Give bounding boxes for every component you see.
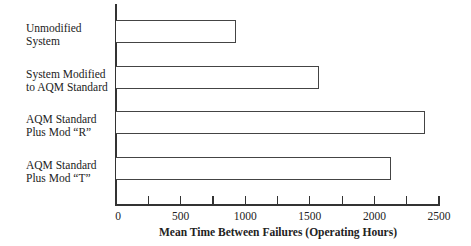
x-tick [342, 196, 343, 205]
category-label-line: AQM Standard [26, 113, 97, 126]
x-tick [180, 196, 181, 205]
bar [116, 157, 391, 180]
bar [116, 66, 319, 89]
category-label-line: to AQM Standard [26, 81, 108, 94]
category-label-line: Plus Mod “R” [26, 126, 97, 139]
x-tick-label: 2000 [363, 210, 386, 222]
x-tick [277, 196, 278, 205]
category-label-line: System [26, 35, 82, 48]
x-tick-label: 1500 [298, 210, 321, 222]
category-label-mod-t: AQM Standard Plus Mod “T” [26, 159, 97, 185]
x-tick-label: 2500 [428, 210, 451, 222]
category-label-mod-r: AQM Standard Plus Mod “R” [26, 113, 97, 139]
x-axis-title: Mean Time Between Failures (Operating Ho… [159, 226, 397, 238]
bar [116, 20, 236, 43]
x-tick [245, 196, 246, 205]
x-tick-label: 1000 [234, 210, 257, 222]
x-tick [148, 196, 149, 205]
category-label-line: System Modified [26, 68, 108, 81]
x-tick [406, 196, 407, 205]
x-tick [374, 196, 375, 205]
x-tick [212, 196, 213, 205]
category-label-line: AQM Standard [26, 159, 97, 172]
x-tick-label: 500 [172, 210, 189, 222]
category-label-aqm-standard: System Modified to AQM Standard [26, 68, 108, 94]
category-label-line: Unmodified [26, 22, 82, 35]
bar [116, 111, 425, 134]
category-label-line: Plus Mod “T” [26, 172, 97, 185]
x-tick-label: 0 [115, 210, 121, 222]
x-tick [309, 196, 310, 205]
x-tick [438, 196, 439, 205]
category-label-unmodified: Unmodified System [26, 22, 82, 48]
